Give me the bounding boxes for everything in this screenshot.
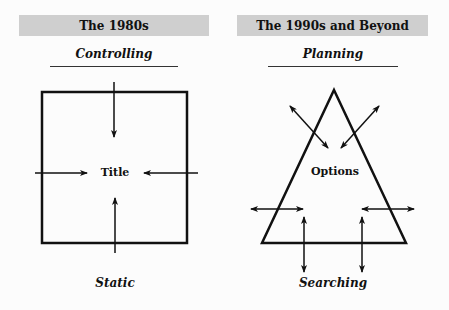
center-label-title: Title	[90, 166, 140, 179]
diagram-canvas	[0, 0, 449, 310]
center-label-options: Options	[300, 165, 370, 178]
bottom-label-searching: Searching	[293, 276, 373, 290]
bidirectional-arrows	[251, 106, 414, 272]
bottom-label-static: Static	[80, 276, 150, 290]
